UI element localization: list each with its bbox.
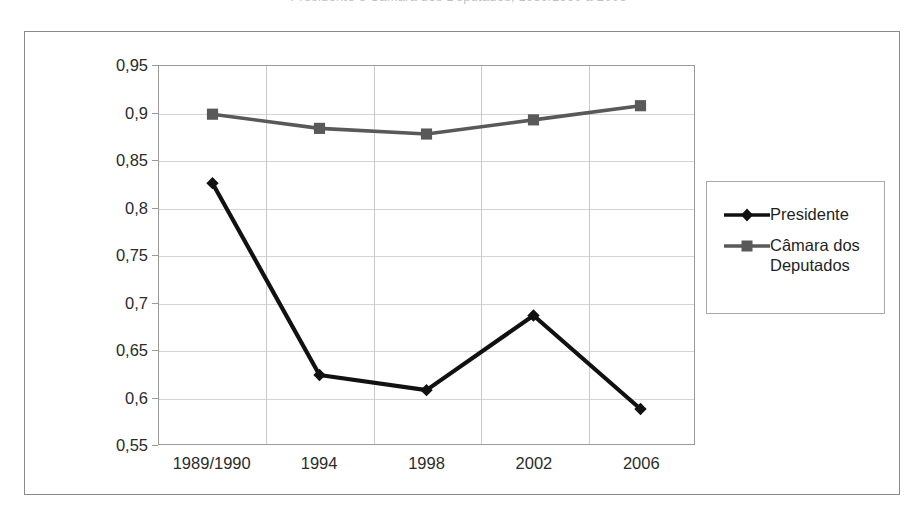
y-axis-tick-label: 0,75 [116,246,148,265]
chart-figure-frame: 0,550,60,650,70,750,80,850,90,95 1989/19… [24,31,900,495]
series-layer [159,66,694,444]
legend-marker-diamond-icon [724,205,770,225]
y-axis-tick-label: 0,6 [125,388,148,407]
x-axis-tick-label: 1994 [301,454,338,473]
series-line-presidente [213,183,641,409]
x-axis-tick-label: 2002 [516,454,553,473]
legend-label-presidente: Presidente [770,204,849,224]
y-axis-tick-label: 0,85 [116,151,148,170]
chart-legend: Presidente Câmara dos Deputados [706,181,885,314]
y-axis-tick-label: 0,7 [125,293,148,312]
y-axis-tick-label: 0,95 [116,56,148,75]
x-axis-tick-label: 2006 [623,454,660,473]
legend-label-camara: Câmara dos Deputados [770,235,860,275]
y-axis-tick-label: 0,9 [125,103,148,122]
figure-caption-text: Presidente e Câmara dos Deputados, 1989/… [290,0,626,4]
figure-caption-strip: Presidente e Câmara dos Deputados, 1989/… [0,0,917,13]
y-axis-tick-label: 0,8 [125,198,148,217]
x-axis-tick-label: 1989/1990 [173,454,251,473]
legend-item-camara: Câmara dos Deputados [724,235,860,275]
y-axis: 0,550,60,650,70,750,80,850,90,95 [25,32,158,494]
x-axis-tick-label: 1998 [408,454,445,473]
data-point-marker [421,128,432,139]
y-axis-tick-label: 0,65 [116,341,148,360]
data-point-marker [314,123,325,134]
data-point-marker [528,114,539,125]
data-point-marker [635,100,646,111]
data-point-marker [207,109,218,120]
y-axis-tick-label: 0,55 [116,436,148,455]
plot-area [158,65,695,445]
x-axis: 1989/19901994199820022006 [158,445,695,485]
legend-marker-square-icon [724,236,770,256]
legend-item-presidente: Presidente [724,204,849,225]
